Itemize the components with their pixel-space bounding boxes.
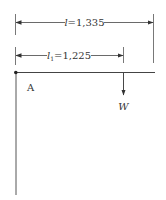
pivot-point-dot [14,71,18,75]
dimension-label-l: l=1,335 [64,17,104,28]
dimension-label-l1: l1=1,225 [47,50,91,62]
load-label-w: W [118,101,129,112]
point-label-a: A [26,82,35,93]
beam-diagram: l=1,335 l1=1,225 A W [0,0,166,200]
